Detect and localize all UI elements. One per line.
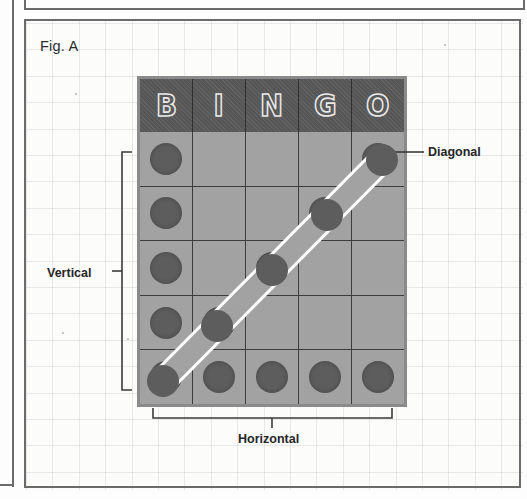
bingo-cell-n-2[interactable] bbox=[246, 187, 299, 241]
bingo-card: B I N G O bbox=[137, 76, 407, 407]
bingo-grid-row bbox=[140, 187, 404, 242]
bingo-chip bbox=[150, 197, 182, 229]
bingo-chip bbox=[150, 252, 182, 284]
bingo-chip bbox=[150, 143, 182, 175]
bingo-cell-n-5[interactable] bbox=[246, 350, 299, 404]
bingo-grid-row bbox=[140, 350, 404, 404]
bingo-cell-i-2[interactable] bbox=[193, 187, 246, 241]
bingo-cell-g-5[interactable] bbox=[299, 350, 352, 404]
label-horizontal: Horizontal bbox=[238, 432, 299, 446]
bingo-cell-o-3[interactable] bbox=[352, 241, 404, 295]
bingo-header-cell-b: B bbox=[140, 79, 193, 132]
bingo-chip bbox=[203, 307, 235, 339]
bingo-cell-i-3[interactable] bbox=[193, 241, 246, 295]
bingo-header-row: B I N G O bbox=[140, 79, 404, 132]
scan-speck bbox=[62, 332, 64, 334]
label-vertical: Vertical bbox=[47, 266, 91, 280]
bingo-chip bbox=[256, 252, 288, 284]
upper-panel-frame bbox=[24, 0, 525, 10]
bingo-cell-i-5[interactable] bbox=[193, 350, 246, 404]
page-outer-bottom-rule bbox=[0, 484, 14, 486]
bingo-grid bbox=[140, 132, 404, 404]
bingo-cell-o-4[interactable] bbox=[352, 296, 404, 350]
page-outer-rule bbox=[12, 0, 14, 487]
bingo-cell-b-2[interactable] bbox=[140, 187, 193, 241]
bingo-cell-b-4[interactable] bbox=[140, 296, 193, 350]
bingo-chip bbox=[362, 143, 394, 175]
scan-speck bbox=[75, 93, 77, 95]
bingo-chip bbox=[309, 361, 341, 393]
bingo-chip bbox=[309, 197, 341, 229]
bingo-cell-g-2[interactable] bbox=[299, 187, 352, 241]
bingo-cell-b-3[interactable] bbox=[140, 241, 193, 295]
bingo-letter-o: O bbox=[366, 91, 389, 121]
figure-page: Fig. A B I N G O bbox=[0, 0, 527, 499]
label-diagonal: Diagonal bbox=[428, 145, 481, 159]
bingo-cell-g-1[interactable] bbox=[299, 132, 352, 186]
bingo-cell-n-1[interactable] bbox=[246, 132, 299, 186]
bingo-letter-i: I bbox=[214, 91, 224, 121]
bingo-cell-i-1[interactable] bbox=[193, 132, 246, 186]
bingo-cell-n-3[interactable] bbox=[246, 241, 299, 295]
bingo-cell-g-3[interactable] bbox=[299, 241, 352, 295]
bingo-grid-row bbox=[140, 296, 404, 351]
bingo-header-cell-g: G bbox=[299, 79, 352, 132]
bingo-chip bbox=[150, 307, 182, 339]
bingo-header-cell-n: N bbox=[246, 79, 299, 132]
bingo-chip bbox=[150, 361, 182, 393]
bingo-letter-g: G bbox=[314, 91, 337, 121]
bingo-cell-g-4[interactable] bbox=[299, 296, 352, 350]
bingo-cell-o-2[interactable] bbox=[352, 187, 404, 241]
bingo-chip bbox=[203, 361, 235, 393]
scan-speck bbox=[444, 44, 446, 46]
bingo-header-cell-o: O bbox=[352, 79, 404, 132]
scan-speck bbox=[127, 338, 129, 340]
bingo-chip bbox=[256, 361, 288, 393]
bingo-letter-n: N bbox=[260, 91, 283, 121]
bingo-cell-o-5[interactable] bbox=[352, 350, 404, 404]
figure-label: Fig. A bbox=[40, 38, 78, 54]
bingo-header-cell-i: I bbox=[193, 79, 246, 132]
bingo-chip bbox=[362, 361, 394, 393]
bingo-cell-i-4[interactable] bbox=[193, 296, 246, 350]
bingo-cell-b-5[interactable] bbox=[140, 350, 193, 404]
bingo-grid-row bbox=[140, 241, 404, 296]
bingo-cell-b-1[interactable] bbox=[140, 132, 193, 186]
bingo-letter-b: B bbox=[155, 91, 176, 121]
bingo-grid-row bbox=[140, 132, 404, 187]
bingo-cell-n-4[interactable] bbox=[246, 296, 299, 350]
bingo-cell-o-1[interactable] bbox=[352, 132, 404, 186]
